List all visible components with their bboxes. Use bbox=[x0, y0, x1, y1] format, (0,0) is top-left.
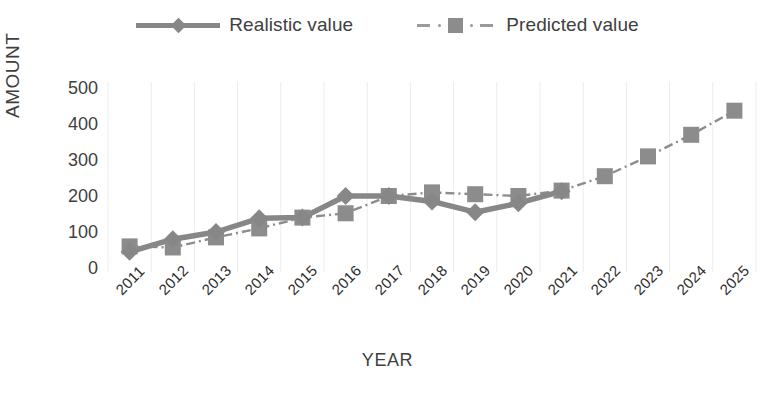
x-axis-tick-2025: 2025 bbox=[716, 262, 752, 298]
x-axis-tick-2017: 2017 bbox=[371, 262, 407, 298]
x-axis-tick-2020: 2020 bbox=[500, 262, 536, 298]
x-axis-tick-2021: 2021 bbox=[544, 262, 580, 298]
x-axis-tick-2016: 2016 bbox=[328, 262, 364, 298]
x-axis-tick-2019: 2019 bbox=[457, 262, 493, 298]
x-axis-tick-2015: 2015 bbox=[284, 262, 320, 298]
x-axis-tick-2011: 2011 bbox=[112, 262, 148, 298]
x-axis-tick-2022: 2022 bbox=[587, 262, 623, 298]
x-axis-tick-2024: 2024 bbox=[673, 262, 709, 298]
plot-area: AMOUNT 0100200300400500 2011201220132014… bbox=[0, 0, 775, 394]
x-axis-tick-2013: 2013 bbox=[198, 262, 234, 298]
x-axis-title: YEAR bbox=[0, 350, 775, 371]
x-axis-tick-2014: 2014 bbox=[241, 262, 277, 298]
x-axis-tick-2012: 2012 bbox=[155, 262, 191, 298]
x-axis-tick-2023: 2023 bbox=[630, 262, 666, 298]
x-axis-tick-labels: 2011201220132014201520162017201820192020… bbox=[0, 0, 775, 394]
x-axis-tick-2018: 2018 bbox=[414, 262, 450, 298]
chart-root: Realistic value Predicted value AMOUNT 0… bbox=[0, 0, 775, 394]
